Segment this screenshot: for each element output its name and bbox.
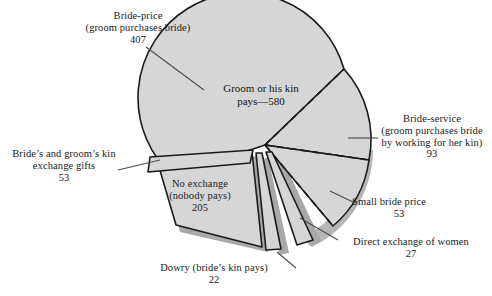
label-direct-exchange-line1: Direct exchange of women <box>333 236 489 248</box>
label-gifts-value: 53 <box>4 172 124 184</box>
label-no-exchange-line2: (nobody pays) <box>145 190 255 202</box>
label-bride-price: Bride-price (groom purchases bride) 407 <box>48 10 228 45</box>
label-gifts-line1: Bride’s and groom’s kin <box>4 148 124 160</box>
label-direct-exchange: Direct exchange of women 27 <box>333 236 489 260</box>
label-no-exchange-value: 205 <box>145 202 255 214</box>
annotation-groom-pays-line1: Groom or his kin <box>186 82 336 95</box>
label-no-exchange: No exchange (nobody pays) 205 <box>145 178 255 213</box>
label-bride-price-line2: (groom purchases bride) <box>48 22 228 34</box>
label-bride-price-value: 407 <box>48 34 228 46</box>
label-bride-service-value: 93 <box>372 148 492 160</box>
label-direct-exchange-value: 27 <box>333 248 489 260</box>
pie-chart-figure: Bride-price (groom purchases bride) 407 … <box>0 0 492 296</box>
label-dowry: Dowry (bride’s kin pays) 22 <box>131 262 297 286</box>
label-bride-service: Bride-service (groom purchases bride by … <box>372 113 492 160</box>
annotation-groom-pays-line2: pays—580 <box>186 95 336 108</box>
label-small-bride-price-value: 53 <box>352 208 446 220</box>
label-bride-price-line1: Bride-price <box>48 10 228 22</box>
label-gifts-line2: exchange gifts <box>4 160 124 172</box>
label-bride-service-line1: Bride-service <box>372 113 492 125</box>
label-small-bride-price: Small bride price 53 <box>352 196 472 220</box>
label-dowry-line1: Dowry (bride’s kin pays) <box>131 262 297 274</box>
label-dowry-value: 22 <box>131 274 297 286</box>
label-no-exchange-line1: No exchange <box>145 178 255 190</box>
label-bride-service-line3: by working for her kin) <box>372 137 492 149</box>
label-gifts: Bride’s and groom’s kin exchange gifts 5… <box>4 148 124 183</box>
annotation-groom-pays: Groom or his kin pays—580 <box>186 82 336 107</box>
label-small-bride-price-line1: Small bride price <box>352 196 472 208</box>
label-bride-service-line2: (groom purchases bride <box>372 125 492 137</box>
